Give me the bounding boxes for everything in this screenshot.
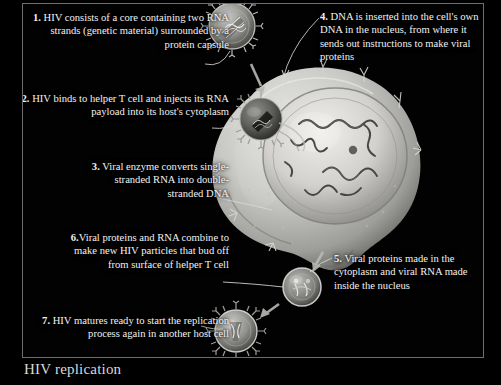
cell-nucleus: [263, 88, 407, 224]
step-6-text: Viral proteins and RNA combine to make n…: [74, 232, 229, 270]
callout-step-4: 4. DNA is inserted into the cell's own D…: [320, 10, 480, 64]
publisher-logo: [300, 374, 390, 385]
step-1-number: 1.: [33, 12, 41, 23]
callout-step-2: 2. HIV binds to helper T cell and inject…: [22, 92, 229, 119]
callout-step-7: 7. HIV matures ready to start the replic…: [22, 314, 229, 341]
step-2-number: 2.: [22, 93, 30, 104]
step-5-text: Viral proteins made in the cytoplasm and…: [334, 253, 468, 291]
callout-step-1: 1. HIV consists of a core containing two…: [29, 11, 229, 51]
step-2-text: HIV binds to helper T cell and injects i…: [30, 93, 230, 117]
step-7-number: 7.: [42, 315, 50, 326]
diagram-frame: 1. HIV consists of a core containing two…: [22, 3, 484, 358]
figure-caption: HIV replication: [24, 361, 121, 378]
callout-step-6: 6.Viral proteins and RNA combine to make…: [61, 231, 229, 271]
step-4-number: 4.: [320, 11, 328, 22]
step-5-number: 5.: [334, 253, 342, 264]
step-3-text: Viral enzyme converts single-stranded RN…: [100, 161, 229, 199]
step-4-text: DNA is inserted into the cell's own DNA …: [320, 11, 478, 62]
step-7-text: HIV matures ready to start the replicati…: [50, 315, 229, 339]
step-1-text: HIV consists of a core containing two RN…: [41, 12, 229, 50]
step-6-number: 6.: [71, 232, 79, 243]
hiv-virion-budding: [283, 268, 321, 306]
step-3-number: 3.: [92, 161, 100, 172]
callout-step-3: 3. Viral enzyme converts single-stranded…: [81, 160, 229, 200]
figure-root: 1. HIV consists of a core containing two…: [0, 0, 501, 385]
callout-step-5: 5. Viral proteins made in the cytoplasm …: [334, 252, 476, 292]
